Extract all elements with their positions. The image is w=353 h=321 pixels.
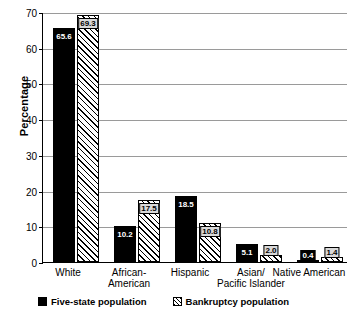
bar-value-white-bankruptcy: 69.3 xyxy=(78,18,98,29)
legend-label-five-state-population: Five-state population xyxy=(51,296,147,307)
bar-value-african-american-five-state: 10.2 xyxy=(115,229,135,240)
bar-white-five-state[interactable]: 65.6 xyxy=(53,28,75,262)
y-tick-label-50: 50 xyxy=(26,79,37,90)
y-tick-10 xyxy=(39,227,43,228)
bar-value-hispanic-five-state: 18.5 xyxy=(176,199,196,210)
y-tick-60 xyxy=(39,49,43,50)
y-tick-70 xyxy=(39,13,43,14)
x-label-african-american-line-2: American xyxy=(84,278,174,289)
bar-group-native-american: 0.4 1.4 xyxy=(289,13,350,262)
bar-value-hispanic-bankruptcy: 10.8 xyxy=(200,226,220,237)
bar-african-american-five-state[interactable]: 10.2 xyxy=(114,226,136,262)
legend-swatch-hatched-icon xyxy=(173,297,182,306)
bar-group-hispanic: 18.5 10.8 xyxy=(167,13,228,262)
bar-group-asian-pacific-islander: 5.1 2.0 xyxy=(228,13,289,262)
plot-area: 70 60 50 40 30 20 10 0 65.6 69.3 xyxy=(42,13,347,263)
legend-item-bankruptcy-population[interactable]: Bankruptcy population xyxy=(173,296,289,307)
bar-hispanic-five-state[interactable]: 18.5 xyxy=(175,196,197,262)
legend-swatch-solid-black-icon xyxy=(38,297,47,306)
y-tick-label-70: 70 xyxy=(26,8,37,19)
x-label-native-american: Native American xyxy=(264,267,353,278)
bar-value-asian-pacific-islander-bankruptcy: 2.0 xyxy=(263,245,278,256)
x-label-native-american-line-1: Native American xyxy=(264,267,353,278)
bar-asian-pacific-islander-five-state[interactable]: 5.1 xyxy=(236,244,258,262)
y-tick-40 xyxy=(39,120,43,121)
bar-asian-pacific-islander-bankruptcy[interactable]: 2.0 xyxy=(260,255,282,262)
y-tick-0 xyxy=(39,263,43,264)
y-tick-label-30: 30 xyxy=(26,150,37,161)
bar-value-white-five-state: 65.6 xyxy=(54,31,74,42)
bar-value-african-american-bankruptcy: 17.5 xyxy=(139,203,159,214)
y-tick-50 xyxy=(39,84,43,85)
y-tick-label-40: 40 xyxy=(26,115,37,126)
legend: Five-state population Bankruptcy populat… xyxy=(38,296,289,307)
legend-label-bankruptcy-population: Bankruptcy population xyxy=(186,296,289,307)
bar-white-bankruptcy[interactable]: 69.3 xyxy=(77,15,99,263)
y-tick-label-10: 10 xyxy=(26,222,37,233)
y-tick-20 xyxy=(39,192,43,193)
y-tick-label-20: 20 xyxy=(26,186,37,197)
bar-value-asian-pacific-islander-five-state: 5.1 xyxy=(239,247,254,258)
bar-african-american-bankruptcy[interactable]: 17.5 xyxy=(138,200,160,263)
bar-native-american-bankruptcy[interactable]: 1.4 xyxy=(321,257,343,262)
bar-value-native-american-bankruptcy: 1.4 xyxy=(324,247,339,258)
bar-chart: Percentage 70 60 50 40 30 20 10 0 65.6 xyxy=(0,0,353,321)
bar-hispanic-bankruptcy[interactable]: 10.8 xyxy=(199,223,221,262)
legend-item-five-state-population[interactable]: Five-state population xyxy=(38,296,147,307)
bar-value-native-american-five-state: 0.4 xyxy=(300,250,315,261)
bar-native-american-five-state[interactable]: 0.4 xyxy=(297,260,319,262)
y-tick-label-60: 60 xyxy=(26,43,37,54)
x-label-asian-pacific-islander-line-2: Pacific Islander xyxy=(206,278,296,289)
bar-group-african-american: 10.2 17.5 xyxy=(106,13,167,262)
y-tick-30 xyxy=(39,156,43,157)
bar-group-white: 65.6 69.3 xyxy=(45,13,106,262)
